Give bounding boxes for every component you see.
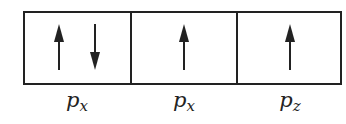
label-subscript: x bbox=[186, 97, 194, 115]
down-arrow-icon bbox=[90, 24, 100, 70]
up-arrow-icon bbox=[285, 24, 295, 70]
orbital-label-3: pz bbox=[279, 88, 300, 115]
up-arrow-icon bbox=[179, 24, 189, 70]
label-main: p bbox=[279, 88, 292, 112]
label-main: p bbox=[173, 88, 186, 112]
up-arrow-icon bbox=[54, 24, 64, 70]
orbital-label-2: px bbox=[173, 88, 195, 115]
orbital-diagram: px px pz bbox=[0, 0, 346, 124]
label-main: p bbox=[66, 88, 79, 112]
orbital-box-outline bbox=[24, 12, 341, 84]
orbital-label-1: px bbox=[66, 88, 88, 115]
label-subscript: z bbox=[293, 97, 301, 115]
label-subscript: x bbox=[79, 97, 87, 115]
